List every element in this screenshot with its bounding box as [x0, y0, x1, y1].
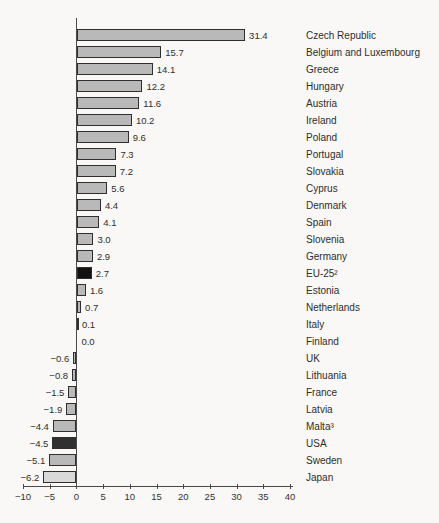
- bar: [77, 29, 245, 41]
- bar-value-label: 1.6: [90, 284, 103, 297]
- x-tick-label: −5: [36, 491, 64, 502]
- bar: [49, 454, 76, 466]
- bar-value-label: −4.4: [30, 420, 49, 433]
- bar: [43, 471, 76, 483]
- x-tick: [237, 484, 238, 489]
- bar: [77, 46, 161, 58]
- x-tick: [50, 484, 51, 489]
- bar: [52, 437, 76, 449]
- category-label: Ireland: [306, 114, 337, 127]
- category-label: Cyprus: [306, 182, 338, 195]
- bar-value-label: −0.6: [50, 352, 69, 365]
- bar: [77, 250, 93, 262]
- bar-value-label: −0.8: [49, 369, 68, 382]
- bar: [77, 97, 139, 109]
- bar: [77, 182, 107, 194]
- bar-value-label: 5.6: [111, 182, 124, 195]
- x-tick: [103, 484, 104, 489]
- category-label: Greece: [306, 63, 339, 76]
- bar-value-label: 2.9: [97, 250, 110, 263]
- category-label: Austria: [306, 97, 337, 110]
- bar: [77, 80, 142, 92]
- category-label: Denmark: [306, 199, 347, 212]
- category-label: UK: [306, 352, 320, 365]
- bar-chart: −10−50510152025303540 31.4Czech Republic…: [0, 0, 439, 523]
- bar-value-label: −1.9: [44, 403, 63, 416]
- bar: [77, 148, 116, 160]
- category-label: Italy: [306, 318, 324, 331]
- bar-value-label: 10.2: [136, 114, 155, 127]
- category-label: Netherlands: [306, 301, 360, 314]
- x-tick-label: 25: [196, 491, 224, 502]
- x-tick: [76, 484, 77, 489]
- x-axis-line: [23, 486, 293, 487]
- category-label: Czech Republic: [306, 29, 376, 42]
- bar: [73, 352, 76, 364]
- x-tick-label: 0: [62, 491, 90, 502]
- bar-value-label: 9.6: [133, 131, 146, 144]
- x-tick: [290, 484, 291, 489]
- bar: [72, 369, 76, 381]
- x-tick: [23, 484, 24, 489]
- bar: [77, 131, 128, 143]
- category-label: Slovenia: [306, 233, 344, 246]
- category-label: Poland: [306, 131, 337, 144]
- x-tick: [130, 484, 131, 489]
- category-label: Malta³: [306, 420, 334, 433]
- bar: [68, 386, 76, 398]
- bar: [77, 233, 93, 245]
- bar: [77, 318, 79, 330]
- bar-value-label: 15.7: [165, 46, 184, 59]
- bar: [77, 114, 132, 126]
- x-tick-label: 15: [143, 491, 171, 502]
- x-tick: [183, 484, 184, 489]
- bar-value-label: −1.5: [46, 386, 65, 399]
- x-tick-label: −10: [9, 491, 37, 502]
- bar: [53, 420, 77, 432]
- category-label: EU-25²: [306, 267, 338, 280]
- category-label: Slovakia: [306, 165, 344, 178]
- category-label: Belgium and Luxembourg: [306, 46, 420, 59]
- category-label: Latvia: [306, 403, 333, 416]
- bar: [77, 216, 99, 228]
- bar: [77, 199, 101, 211]
- bar-value-label: 0.7: [85, 301, 98, 314]
- x-tick-label: 5: [89, 491, 117, 502]
- category-label: Hungary: [306, 80, 344, 93]
- bar-value-label: 7.3: [120, 148, 133, 161]
- bar-value-label: 31.4: [249, 29, 268, 42]
- category-label: Portugal: [306, 148, 343, 161]
- bar-value-label: 3.0: [97, 233, 110, 246]
- x-tick-label: 35: [249, 491, 277, 502]
- category-label: Japan: [306, 471, 333, 484]
- bar-value-label: 14.1: [157, 63, 176, 76]
- category-label: USA: [306, 437, 327, 450]
- category-label: Lithuania: [306, 369, 347, 382]
- bar: [77, 165, 115, 177]
- bar: [77, 267, 91, 279]
- x-tick: [210, 484, 211, 489]
- bar-value-label: 0.0: [81, 335, 94, 348]
- bar-value-label: −4.5: [30, 437, 49, 450]
- x-tick-label: 10: [116, 491, 144, 502]
- bar-value-label: 4.4: [105, 199, 118, 212]
- bar-value-label: −5.1: [26, 454, 45, 467]
- category-label: France: [306, 386, 337, 399]
- category-label: Finland: [306, 335, 339, 348]
- bar-value-label: 0.1: [82, 318, 95, 331]
- x-tick: [263, 484, 264, 489]
- bar-value-label: 12.2: [147, 80, 166, 93]
- bar: [77, 301, 81, 313]
- x-tick-label: 40: [276, 491, 304, 502]
- category-label: Estonia: [306, 284, 339, 297]
- bar: [77, 63, 152, 75]
- category-label: Germany: [306, 250, 347, 263]
- category-label: Spain: [306, 216, 332, 229]
- bar-value-label: 7.2: [120, 165, 133, 178]
- bar-value-label: 4.1: [103, 216, 116, 229]
- x-tick-label: 30: [223, 491, 251, 502]
- bar-value-label: −6.2: [21, 471, 40, 484]
- bar: [77, 284, 86, 296]
- category-label: Sweden: [306, 454, 342, 467]
- x-tick-label: 20: [169, 491, 197, 502]
